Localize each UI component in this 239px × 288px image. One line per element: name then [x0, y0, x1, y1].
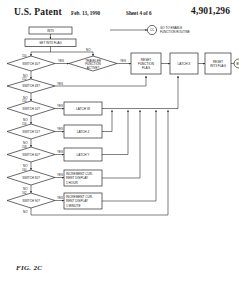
decision-switch-55-yes: YES — [57, 127, 63, 131]
decision-switch-48-ref: 152 — [22, 77, 27, 81]
figure-label: FIG. 2C — [16, 264, 42, 272]
decision-switch-60-ref: 158 — [22, 145, 27, 149]
merge-latch-z-riser — [102, 110, 112, 131]
flowchart-figure: INT3 SET INT3 FLAG CC GO TO ENABLE FUNCT… — [0, 0, 239, 288]
decision-switch-50-label: SWITCH 50? — [22, 107, 40, 111]
decision-switch-90-label: SWITCH 90? — [22, 199, 40, 203]
decision-switch-50-ref: 154 — [22, 99, 27, 103]
enable-routine-note-line2: FUNCTION ROUTINE — [160, 30, 190, 34]
entry-box-int3-label: INT3 — [47, 29, 54, 33]
process-latch-x-label: LATCH X — [178, 62, 191, 66]
decision-switch-60-label: SWITCH 60? — [22, 153, 40, 157]
decision-switch-80-label: SWITCH 80? — [22, 176, 40, 180]
decision-switch-55-label: SWITCH 55? — [22, 130, 40, 134]
merge-latch-y-riser — [102, 110, 128, 154]
merge-increment-minute-riser — [102, 110, 156, 201]
decision-switch-55-no: NO — [23, 141, 28, 145]
decision-switch-80-yes: YES — [57, 173, 63, 177]
flowchart-svg: INT3 SET INT3 FLAG CC GO TO ENABLE FUNCT… — [0, 0, 239, 288]
decision-switch-50-yes: YES — [57, 104, 63, 108]
decision-switch-48-no: NO — [23, 96, 28, 100]
process-latch-w-label: LATCH W — [76, 107, 90, 111]
decision-switch-90-yes: YES — [57, 196, 63, 200]
decision-switch-90-ref: 162 — [22, 191, 27, 195]
decision-switch-90-no: NO — [23, 210, 28, 214]
decision-switch-48-yes: YES — [57, 82, 63, 86]
process-increment-hour-line3: 1 HOUR — [66, 181, 78, 185]
decision-switch-40-no: NO — [23, 74, 28, 78]
decision-switch-48-label: SWITCH 48? — [22, 84, 40, 88]
decision-traveler-line3: ACTIVE? — [87, 66, 100, 70]
process-increment-minute-line3: 1 MINUTE — [66, 204, 80, 208]
decision-traveler-yes: YES — [120, 59, 126, 63]
decision-switch-55-ref: 156 — [22, 122, 27, 126]
entry-box-set-int3-flag-label: SET INT3 FLAG — [39, 41, 62, 45]
process-latch-z-label: LATCH Z — [77, 130, 90, 134]
decision-switch-80-no: NO — [23, 187, 28, 191]
decision-switch-50-no: NO — [23, 118, 28, 122]
decision-switch-80-ref: 160 — [22, 168, 27, 172]
process-reset-function-flag-line3: FLAG — [142, 66, 151, 70]
decision-switch-60-no: NO — [23, 164, 28, 168]
connector-circle-cc-label: CC — [150, 28, 154, 32]
decision-switch-40-label: SWITCH 40? — [22, 62, 40, 66]
decision-traveler-no: NO — [86, 48, 91, 52]
merge-increment-hour-riser — [102, 110, 140, 178]
connector-circle-bb-label: BB — [237, 62, 239, 66]
process-latch-y-label: LATCH Y — [77, 153, 90, 157]
connector-sw48-yes-merge — [55, 76, 146, 86]
decision-switch-40-yes: YES — [58, 59, 64, 63]
process-reset-int3-flag-line2: INT3 FLAG — [210, 64, 226, 68]
decision-switch-40-ref: 150 — [22, 54, 27, 58]
decision-switch-60-yes: YES — [57, 150, 63, 154]
